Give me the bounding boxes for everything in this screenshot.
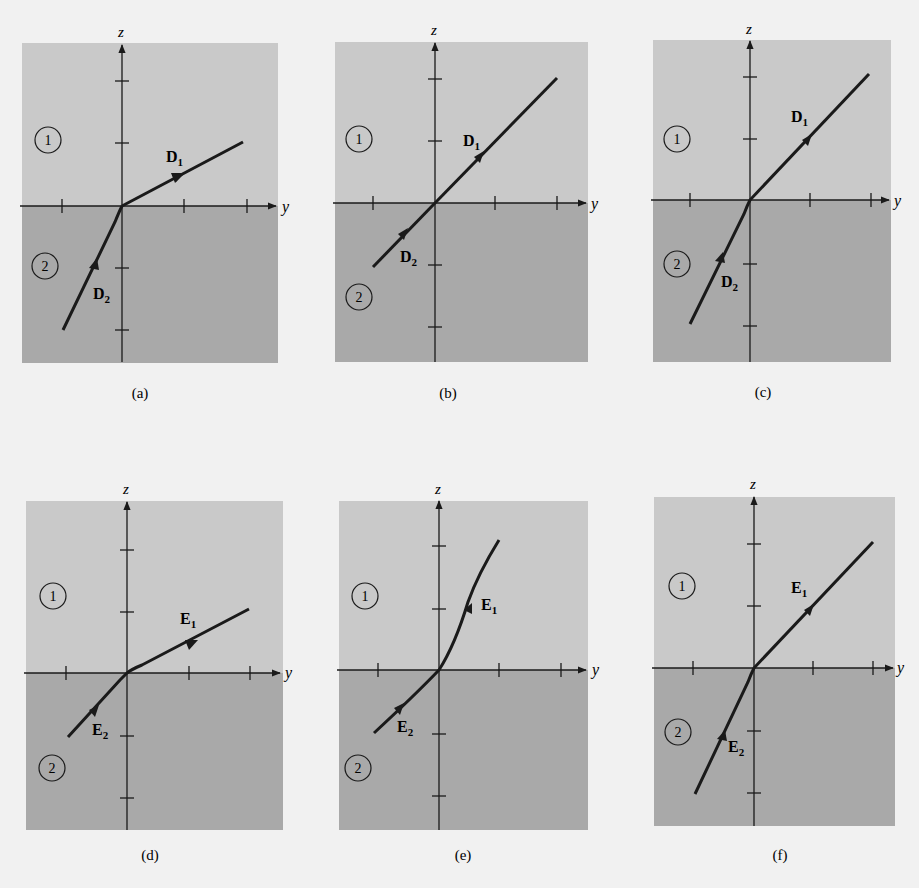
panel-caption: (f) bbox=[773, 847, 788, 864]
region-1-area bbox=[339, 501, 588, 670]
panel-caption: (d) bbox=[141, 847, 159, 864]
y-axis-label: y bbox=[895, 659, 905, 677]
panel-caption: (c) bbox=[755, 384, 772, 401]
z-axis-label: z bbox=[430, 22, 437, 38]
region-1-area bbox=[26, 501, 283, 673]
region-2-label: 2 bbox=[49, 761, 56, 776]
region-1-label: 1 bbox=[50, 589, 57, 604]
region-1-label: 1 bbox=[45, 133, 52, 148]
region-2-area bbox=[653, 200, 891, 362]
panel-f: z y 1 2 E1 E2 (f) bbox=[652, 476, 905, 864]
panel-caption: (a) bbox=[132, 385, 149, 402]
panel-caption: (e) bbox=[455, 847, 472, 864]
region-2-label: 2 bbox=[356, 290, 363, 305]
y-axis-label: y bbox=[589, 195, 599, 213]
boundary-condition-figure: z y 1 2 D1 D2 (a) z y 1 bbox=[0, 0, 919, 888]
region-1-area bbox=[654, 497, 895, 668]
z-axis-label: z bbox=[117, 24, 124, 40]
panel-d: z y 1 2 E1 E2 (d) bbox=[24, 481, 293, 864]
region-1-area bbox=[335, 42, 588, 203]
panel-e: z y 1 2 E1 E2 (e) bbox=[337, 481, 600, 864]
z-axis-label: z bbox=[122, 481, 129, 497]
z-axis-label: z bbox=[434, 481, 441, 497]
panel-a: z y 1 2 D1 D2 (a) bbox=[20, 24, 290, 402]
z-axis-label: z bbox=[749, 476, 756, 492]
panel-b: z y 1 2 D1 D2 (b) bbox=[333, 22, 599, 402]
region-2-label: 2 bbox=[675, 725, 682, 740]
region-1-area bbox=[22, 43, 278, 206]
region-2-label: 2 bbox=[355, 761, 362, 776]
region-2-label: 2 bbox=[674, 257, 681, 272]
y-axis-label: y bbox=[590, 661, 600, 679]
region-1-label: 1 bbox=[356, 132, 363, 147]
y-axis-label: y bbox=[892, 192, 902, 210]
region-2-area bbox=[654, 668, 895, 826]
z-axis-label: z bbox=[745, 21, 752, 37]
region-2-area bbox=[22, 206, 278, 363]
region-2-area bbox=[335, 203, 588, 362]
region-1-label: 1 bbox=[679, 579, 686, 594]
y-axis-label: y bbox=[283, 664, 293, 682]
region-2-area bbox=[26, 673, 283, 830]
region-2-label: 2 bbox=[42, 259, 49, 274]
region-2-area bbox=[339, 670, 588, 830]
region-1-label: 1 bbox=[674, 132, 681, 147]
y-axis-label: y bbox=[280, 198, 290, 216]
panel-caption: (b) bbox=[439, 385, 457, 402]
panel-c: z y 1 2 D1 D2 (c) bbox=[651, 21, 902, 401]
region-1-label: 1 bbox=[362, 589, 369, 604]
